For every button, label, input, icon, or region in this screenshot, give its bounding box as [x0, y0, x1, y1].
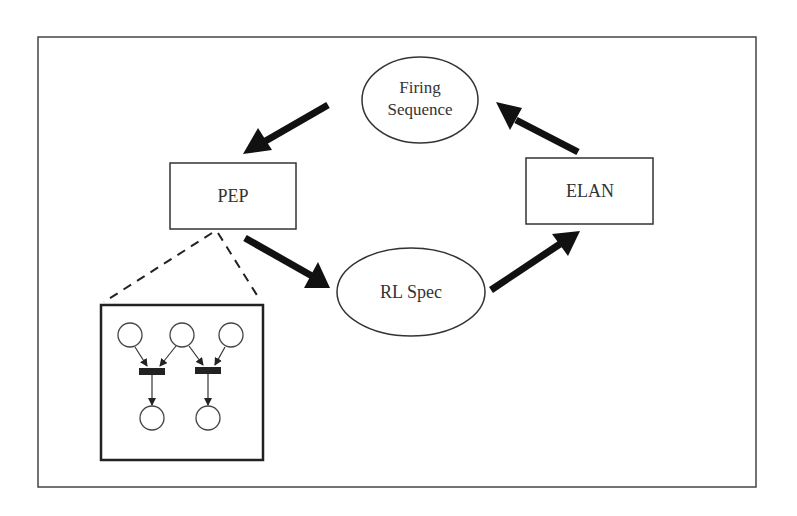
petri-net-inset: [101, 305, 263, 460]
node-pep: PEP: [170, 163, 296, 229]
firing-sequence-line2: Sequence: [387, 100, 452, 119]
node-rl-spec: RL Spec: [337, 248, 485, 336]
arrow-rlspec-to-elan: [491, 231, 580, 290]
pep-label: PEP: [217, 186, 248, 206]
firing-sequence-line1: Firing: [399, 78, 441, 97]
place-2: [170, 323, 194, 347]
node-firing-sequence: Firing Sequence: [362, 57, 478, 143]
arrow-pep-to-rlspec: [245, 238, 330, 288]
transition-2: [195, 367, 221, 374]
zoom-line-left: [104, 233, 212, 302]
place-3: [219, 323, 243, 347]
node-elan: ELAN: [526, 158, 653, 224]
elan-label: ELAN: [566, 181, 614, 201]
diagram-canvas: Firing Sequence PEP ELAN RL Spec: [0, 0, 797, 516]
transition-1: [139, 368, 165, 375]
place-1: [118, 323, 142, 347]
rl-spec-label: RL Spec: [380, 282, 442, 302]
place-5: [196, 406, 220, 430]
place-4: [140, 406, 164, 430]
arrow-firing-to-pep: [243, 105, 328, 154]
arrow-elan-to-firing: [496, 102, 578, 152]
